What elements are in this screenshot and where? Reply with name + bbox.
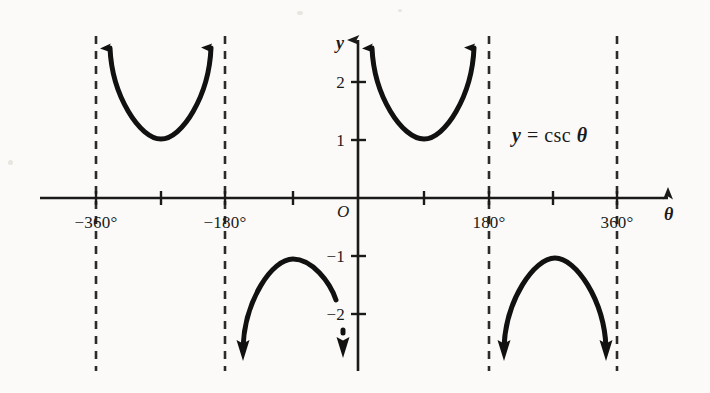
x-tick-label-minus-180: −180° xyxy=(204,214,247,231)
y-tick-label-minus-1: −1 xyxy=(327,248,346,265)
y-axis-label: y xyxy=(336,34,344,52)
equation-function-name: csc xyxy=(544,124,571,146)
csc-branch-right-lower xyxy=(504,258,606,347)
figure-canvas: −360° −180° 180° 360° 2 1 −1 −2 y θ O y … xyxy=(0,0,710,393)
graph-plot xyxy=(0,0,710,393)
paper-speck xyxy=(297,11,303,15)
y-tick-label-2: 2 xyxy=(336,74,345,91)
y-tick-label-minus-2: −2 xyxy=(327,306,346,323)
equation-equals: = xyxy=(527,124,539,146)
asymptote-group xyxy=(96,36,617,371)
equation-argument: θ xyxy=(577,124,588,146)
csc-branch-right-upper xyxy=(372,48,474,139)
x-tick-label-plus-360: 360° xyxy=(600,214,633,231)
y-tick-label-1: 1 xyxy=(336,132,345,149)
paper-speck xyxy=(8,160,13,165)
csc-lower-arrowheads xyxy=(237,337,613,361)
arrowhead-down-left-inner xyxy=(337,337,350,358)
equation-annotation: y = csc θ xyxy=(512,125,588,145)
x-tick-label-minus-360: −360° xyxy=(75,214,118,231)
origin-label: O xyxy=(337,203,349,220)
paper-speck xyxy=(398,9,402,12)
csc-branch-left-upper xyxy=(110,48,211,139)
csc-branch-left-lower xyxy=(243,259,336,347)
equation-lhs: y xyxy=(512,124,521,146)
x-axis-label: θ xyxy=(664,205,673,223)
x-tick-label-plus-180: 180° xyxy=(472,214,505,231)
